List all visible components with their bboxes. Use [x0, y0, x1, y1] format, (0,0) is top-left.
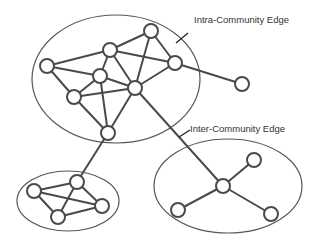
inter-edge-pointer	[179, 130, 190, 137]
node-F	[128, 81, 142, 95]
node-N	[216, 179, 230, 193]
node-K	[27, 184, 41, 198]
inter-community-edge-label: Inter-Community Edge	[190, 124, 285, 134]
node-B	[103, 43, 117, 57]
node-P	[171, 203, 185, 217]
node-I	[235, 77, 249, 91]
node-L	[51, 210, 65, 224]
intra-community-edge-label: Intra-Community Edge	[194, 15, 289, 25]
edge-K-M	[34, 191, 102, 206]
edge-D-I	[175, 63, 242, 84]
node-Q	[264, 207, 278, 221]
node-A	[40, 59, 54, 73]
node-C	[144, 24, 158, 38]
node-D	[168, 56, 182, 70]
node-G	[67, 90, 81, 104]
node-M	[95, 199, 109, 213]
node-O	[247, 153, 261, 167]
node-H	[101, 126, 115, 140]
edge-N-Q	[223, 186, 271, 214]
edge-A-B	[47, 50, 110, 66]
node-E	[93, 69, 107, 83]
node-J	[70, 175, 84, 189]
intra-edge-pointer	[176, 33, 188, 43]
